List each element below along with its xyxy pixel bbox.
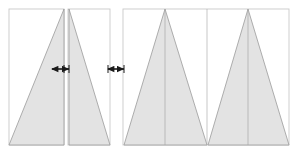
left-ramp-up-panel <box>9 9 64 145</box>
diagram-root <box>0 0 297 153</box>
diagram-canvas <box>0 0 297 153</box>
panels-layer <box>9 9 289 145</box>
right-double-peak-panel <box>123 9 289 145</box>
mid-ramp-down-panel <box>68 9 110 145</box>
